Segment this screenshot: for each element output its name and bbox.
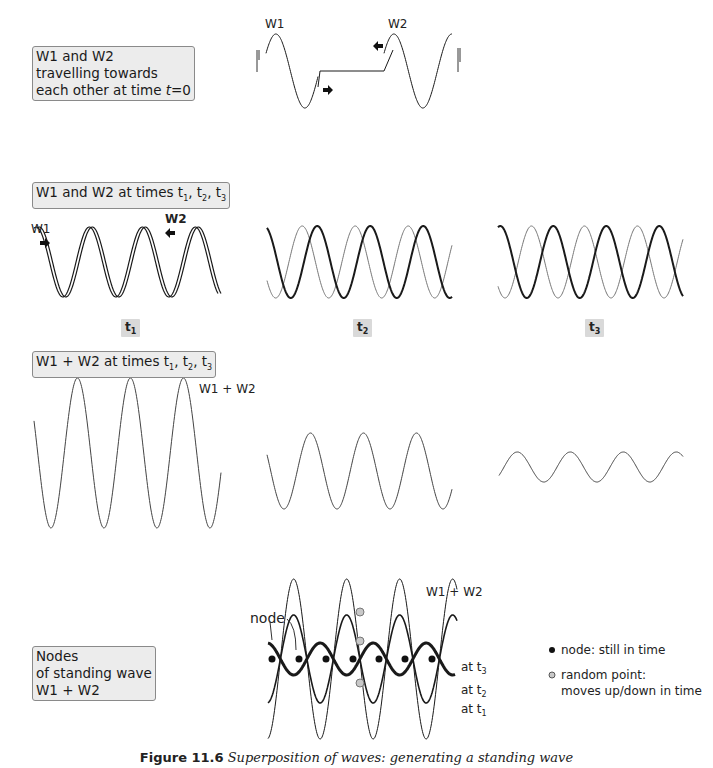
at-t2-label: at t2 — [461, 683, 487, 699]
w1-right-arrow-icon — [323, 85, 333, 95]
node-dot-1 — [269, 656, 276, 663]
w2-right-tick — [458, 48, 460, 72]
w2-wave-t2 — [267, 226, 452, 298]
time-tag-sub: 3 — [595, 327, 601, 336]
w1-wave-t2 — [267, 226, 452, 298]
at-t3-label: at t3 — [461, 660, 487, 676]
figure-number: Figure 11.6 — [140, 750, 224, 765]
sub-1: 1 — [169, 363, 174, 372]
w1-wave-t3 — [498, 226, 683, 298]
random-point-t3 — [356, 679, 364, 687]
sub-2: 2 — [188, 363, 193, 372]
figure-caption: Figure 11.6 Superposition of waves: gene… — [0, 750, 713, 765]
node-dot-5 — [376, 656, 383, 663]
sub-3: 3 — [221, 194, 226, 203]
sum-wave-t2 — [267, 433, 452, 509]
time-tag-sub: 1 — [131, 327, 137, 336]
random-point-t1 — [356, 608, 364, 616]
at-label-sub: 2 — [482, 690, 487, 699]
node-dot-6 — [402, 656, 409, 663]
time-tag-sub: 2 — [363, 327, 369, 336]
time-tag-t3: t3 — [585, 319, 604, 337]
label-times-text: W1 and W2 at times t — [36, 184, 183, 200]
sum-wave-t1 — [34, 378, 221, 528]
legend-node-dot-icon — [549, 647, 555, 653]
w2-left-arrow-icon — [373, 41, 383, 51]
sub-1: 1 — [183, 194, 188, 203]
at-label-sub: 1 — [482, 709, 487, 718]
w1-pulse — [266, 34, 318, 108]
w2-wave-t3 — [498, 226, 683, 298]
label-line-1: Nodes — [36, 648, 152, 665]
sub-2: 2 — [202, 194, 207, 203]
node-label: node — [250, 610, 285, 626]
sum-wave-t3 — [499, 452, 683, 482]
node-dot-7 — [429, 656, 436, 663]
node-dot-3 — [323, 656, 330, 663]
at-label-base: at t — [461, 660, 482, 674]
legend-node-text: node: still in time — [561, 643, 665, 657]
w1-label-times: W1 — [31, 222, 51, 236]
w2-pulse — [384, 34, 452, 108]
label-times: W1 and W2 at times t1, t2, t3 — [32, 182, 230, 209]
sub-3: 3 — [207, 363, 212, 372]
node-dot-4 — [350, 656, 357, 663]
label-sum: W1 + W2 at times t1, t2, t3 — [32, 351, 216, 378]
sum-wave-label: W1 + W2 — [199, 382, 256, 396]
label-line-3: W1 + W2 — [36, 682, 152, 699]
label-sum-text: W1 + W2 at times t — [36, 353, 169, 369]
legend-random-text-1: random point: — [561, 668, 646, 682]
random-point-t2 — [356, 637, 364, 645]
connecting-line — [318, 50, 393, 87]
legend-random-point-icon — [549, 672, 555, 678]
node-dot-2 — [296, 656, 303, 663]
time-tag-t1: t1 — [121, 319, 140, 337]
at-t1-label: at t1 — [461, 702, 487, 718]
at-label-sub: 3 — [482, 667, 487, 676]
label-line-2: of standing wave — [36, 665, 152, 682]
legend-random-text-2: moves up/down in time — [561, 684, 702, 698]
time-tag-t2: t2 — [353, 319, 372, 337]
w2-left-arrow-icon — [165, 228, 175, 238]
w2-label-times: W2 — [165, 212, 187, 226]
label-nodes: Nodes of standing wave W1 + W2 — [32, 646, 156, 701]
at-label-base: at t — [461, 702, 482, 716]
at-label-base: at t — [461, 683, 482, 697]
standing-wave-label: W1 + W2 — [426, 585, 483, 599]
figure-caption-text: Superposition of waves: generating a sta… — [228, 750, 573, 765]
w1-left-tick — [257, 50, 259, 72]
